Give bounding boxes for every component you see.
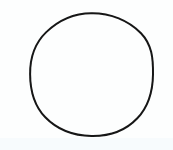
circle-figure [0,0,173,150]
circle-outline [30,13,153,136]
figure-canvas [0,0,173,150]
